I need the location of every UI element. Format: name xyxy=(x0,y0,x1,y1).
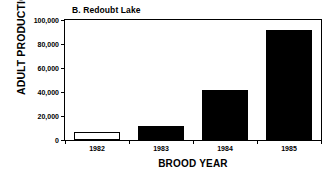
x-axis-tick-label: 1984 xyxy=(217,144,233,153)
y-axis-tick-label: 0 xyxy=(55,136,59,145)
x-axis-tick xyxy=(129,140,130,144)
plot-inner: 020,00040,00060,00080,000100,00019821983… xyxy=(65,20,321,140)
x-axis-tick-label: 1985 xyxy=(281,144,297,153)
y-axis-tick-label: 80,000 xyxy=(38,40,59,49)
bar-1983 xyxy=(138,126,184,140)
y-axis-tick-label: 20,000 xyxy=(38,112,59,121)
y-axis-tick: 100,000 xyxy=(61,20,65,21)
x-axis-tick-label: 1983 xyxy=(153,144,169,153)
y-axis-tick-label: 100,000 xyxy=(34,16,59,25)
chart-title: B. Redoubt Lake xyxy=(72,5,141,15)
x-axis-title: BROOD YEAR xyxy=(64,158,322,169)
y-axis-tick: 40,000 xyxy=(61,92,65,93)
plot-area: 020,00040,00060,00080,000100,00019821983… xyxy=(64,19,322,141)
bar-1982 xyxy=(74,132,120,140)
x-axis-tick xyxy=(321,140,322,144)
bar-1984 xyxy=(202,90,248,140)
y-axis-title: ADULT PRODUCTION xyxy=(14,0,28,105)
y-axis-tick: 80,000 xyxy=(61,44,65,45)
y-axis-tick: 60,000 xyxy=(61,68,65,69)
y-axis-tick-label: 60,000 xyxy=(38,64,59,73)
chart-figure: ADULT PRODUCTION 020,00040,00060,00080,0… xyxy=(0,0,333,181)
x-axis-tick-label: 1982 xyxy=(89,144,105,153)
y-axis-tick: 20,000 xyxy=(61,116,65,117)
y-axis-tick-label: 40,000 xyxy=(38,88,59,97)
bar-1985 xyxy=(266,30,312,140)
x-axis-tick xyxy=(65,140,66,144)
x-axis-tick xyxy=(193,140,194,144)
x-axis-tick xyxy=(257,140,258,144)
